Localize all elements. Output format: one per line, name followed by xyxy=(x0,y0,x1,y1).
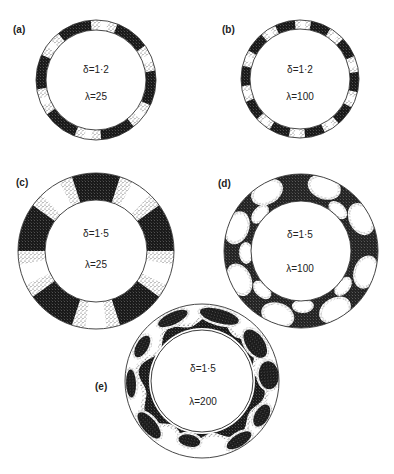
panel-d-label: (d) xyxy=(218,178,231,189)
figure-canvas: (a) δ=1·2 λ=25 (b) δ=1·2 λ=100 (c) δ=1·5… xyxy=(0,0,394,474)
panel-b: (b) δ=1·2 λ=100 xyxy=(222,20,359,138)
panel-c-delta: δ=1·5 xyxy=(83,228,109,239)
panel-d-inner-ring xyxy=(251,201,351,301)
panel-c-label: (c) xyxy=(16,177,28,188)
panel-b-label: (b) xyxy=(222,24,235,35)
panel-d-lambda: λ=100 xyxy=(286,263,314,274)
panel-e-inner-ring xyxy=(151,330,253,432)
panel-b-pattern xyxy=(241,20,359,138)
panel-c-lambda: λ=25 xyxy=(85,259,107,270)
panel-e-lambda: λ=200 xyxy=(189,396,217,407)
panel-a-pattern xyxy=(36,20,156,140)
panel-d: (d) δ=1·5 λ=100 xyxy=(218,170,382,332)
panel-b-inner-ring xyxy=(250,29,350,129)
panel-a-inner-ring xyxy=(46,30,146,130)
panel-d-delta: δ=1·5 xyxy=(287,229,313,240)
panel-c-inner-ring xyxy=(45,200,147,302)
panel-d-pattern xyxy=(220,170,382,332)
panel-b-lambda: λ=100 xyxy=(286,91,314,102)
panel-e-delta: δ=1·5 xyxy=(190,363,216,374)
panel-a-delta: δ=1·2 xyxy=(83,64,109,75)
panel-e: (e) δ=1·5 λ=200 xyxy=(95,301,283,458)
panel-e-label: (e) xyxy=(95,381,107,392)
panel-c-pattern xyxy=(18,173,174,328)
panel-c: (c) δ=1·5 λ=25 xyxy=(16,173,174,329)
panel-b-delta: δ=1·2 xyxy=(287,64,313,75)
panel-a-lambda: λ=25 xyxy=(85,91,107,102)
panel-a: (a) δ=1·2 λ=25 xyxy=(13,20,156,140)
panel-a-label: (a) xyxy=(13,24,25,35)
